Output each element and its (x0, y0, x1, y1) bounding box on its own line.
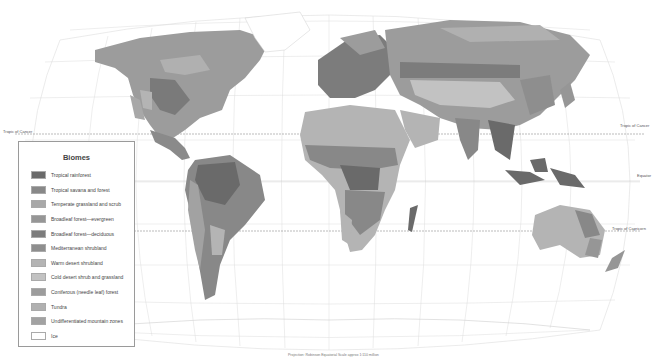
legend-item-temperate-grassland: Temperate grassland and scrub (19, 197, 134, 212)
swatch (31, 332, 46, 340)
legend-item-mediterranean-shrubland: Mediterranean shrubland (19, 241, 134, 256)
legend-title: Biomes (19, 153, 134, 162)
legend-item-broadleaf-deciduous: Broadleaf forest—deciduous (19, 226, 134, 241)
swatch (31, 244, 46, 252)
legend-label: Tropical savana and forest (51, 187, 110, 193)
swatch (31, 288, 46, 296)
legend-label: Coniferous (needle leaf) forest (51, 289, 118, 295)
legend-item-broadleaf-evergreen: Broadleaf forest—evergreen (19, 212, 134, 227)
legend-item-cold-desert: Cold desert shrub and grassland (19, 270, 134, 285)
legend-label: Broadleaf forest—deciduous (51, 231, 114, 237)
equator-label: Equator (637, 173, 651, 178)
swatch (31, 303, 46, 311)
map-caption: Projection: Robinson Equatorial Scale ap… (288, 353, 379, 357)
legend-item-warm-desert: Warm desert shrubland (19, 256, 134, 271)
swatch (31, 171, 46, 179)
legend-item-tundra: Tundra (19, 299, 134, 314)
swatch (31, 186, 46, 194)
swatch (31, 273, 46, 281)
legend-label: Temperate grassland and scrub (51, 201, 121, 207)
legend-label: Warm desert shrubland (51, 260, 103, 266)
legend-item-ice: Ice (19, 329, 134, 344)
legend-item-mountain-zones: Undifferentiated mountain zones (19, 314, 134, 329)
swatch (31, 230, 46, 238)
legend-label: Mediterranean shrubland (51, 245, 107, 251)
legend-item-coniferous-forest: Coniferous (needle leaf) forest (19, 285, 134, 300)
tropic-of-capricorn-label: Tropic of Capricorn (612, 226, 646, 231)
legend-label: Broadleaf forest—evergreen (51, 216, 114, 222)
legend-label: Tundra (51, 304, 67, 310)
tropic-of-cancer-label-left: Tropic of Cancer (3, 129, 32, 134)
swatch (31, 215, 46, 223)
swatch (31, 317, 46, 325)
swatch (31, 200, 46, 208)
legend-label: Tropical rainforest (51, 172, 91, 178)
legend-items: Tropical rainforest Tropical savana and … (19, 168, 134, 343)
legend-item-tropical-savana: Tropical savana and forest (19, 183, 134, 198)
legend-label: Cold desert shrub and grassland (51, 274, 123, 280)
legend-item-tropical-rainforest: Tropical rainforest (19, 168, 134, 183)
legend-label: Ice (51, 333, 58, 339)
legend-label: Undifferentiated mountain zones (51, 318, 123, 324)
swatch (31, 259, 46, 267)
tropic-of-cancer-label-right: Tropic of Cancer (620, 123, 649, 128)
biomes-legend: Biomes Tropical rainforest Tropical sava… (18, 141, 135, 347)
